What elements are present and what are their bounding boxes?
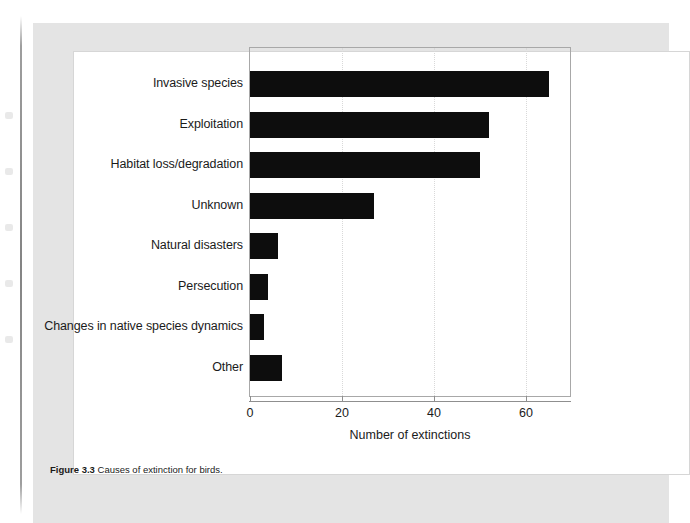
figure-caption-text: Causes of extinction for birds. [98,464,223,475]
scan-artifact [5,168,13,175]
page-edge-strip [0,0,33,523]
figure-card [73,51,690,475]
figure-caption: Figure 3.3 Causes of extinction for bird… [50,464,223,475]
scan-artifact [5,112,13,119]
figure-caption-label: Figure 3.3 [50,464,95,475]
scan-artifact [5,280,13,287]
scan-artifact [5,224,13,231]
figure-panel [33,23,669,523]
page-binding-line [20,16,22,514]
scan-artifact [5,336,13,343]
